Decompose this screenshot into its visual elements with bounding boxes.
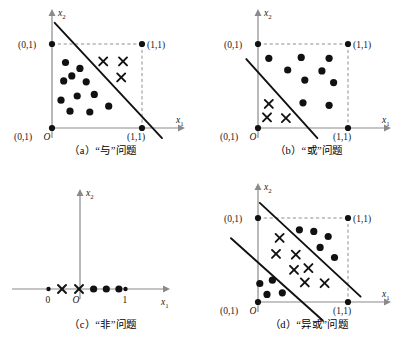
class-dot bbox=[103, 285, 110, 292]
corner-marker bbox=[255, 299, 261, 305]
corner-marker bbox=[345, 299, 351, 305]
logic-problems-figure: (0,1) (1,1) (0,1) (1,1) O x1 x2 （a）“与”问题 bbox=[0, 0, 412, 348]
class-cross bbox=[99, 57, 107, 65]
class-dot bbox=[310, 228, 317, 235]
corner-marker bbox=[255, 125, 261, 131]
class-dot bbox=[68, 72, 75, 79]
class-dot bbox=[269, 277, 276, 284]
x-axis-label: x1 bbox=[381, 115, 390, 127]
panel-c-plot: 0 1 O x1 x2 bbox=[0, 174, 206, 322]
class-dot bbox=[279, 289, 286, 296]
origin-label: O bbox=[250, 306, 257, 316]
panel-d-caption: （d）“异或”问题 bbox=[206, 316, 412, 331]
class-dot bbox=[317, 244, 324, 251]
panel-c-caption: （c）“非”问题 bbox=[0, 316, 206, 331]
corner-marker bbox=[345, 125, 351, 131]
class-dot bbox=[74, 92, 81, 99]
corner-marker bbox=[49, 41, 55, 47]
class-dot bbox=[263, 291, 270, 298]
x-axis-label: x1 bbox=[381, 289, 390, 301]
corner-label-bottom-left: (0,1) bbox=[220, 306, 238, 317]
y-axis-label: x2 bbox=[263, 182, 272, 194]
corner-marker bbox=[255, 41, 261, 47]
class-dot bbox=[301, 77, 308, 84]
panel-a-plot: (0,1) (1,1) (0,1) (1,1) O x1 x2 bbox=[0, 0, 206, 148]
x-axis-label: x1 bbox=[175, 115, 184, 127]
panel-b: (0,1) (1,1) (0,1) (1,1) O x1 x2 （b）“或”问题 bbox=[206, 0, 412, 174]
class-dot bbox=[66, 108, 73, 115]
panel-d-plot: (0,1) (1,1) (0,1) (1,1) O x1 x2 bbox=[206, 174, 412, 322]
corner-marker bbox=[139, 41, 145, 47]
corner-label-top-right: (1,1) bbox=[353, 40, 371, 51]
class-dot bbox=[330, 79, 337, 86]
corner-marker bbox=[139, 125, 145, 131]
class-dot bbox=[62, 59, 69, 66]
y-axis-label: x2 bbox=[57, 8, 66, 20]
y-axis-arrow bbox=[49, 9, 56, 16]
endpoint-dot-one bbox=[123, 287, 127, 291]
y-axis-arrow bbox=[255, 9, 262, 16]
corner-marker bbox=[255, 215, 261, 221]
panel-c: 0 1 O x1 x2 （c）“非”问题 bbox=[0, 174, 206, 348]
class-dot bbox=[90, 285, 97, 292]
class-cross bbox=[282, 114, 290, 122]
class-dot bbox=[115, 285, 122, 292]
class-cross bbox=[321, 279, 329, 287]
class-dot bbox=[326, 102, 333, 109]
corner-marker bbox=[345, 215, 351, 221]
class-cross bbox=[265, 100, 273, 108]
corner-marker bbox=[49, 125, 55, 131]
class-cross bbox=[117, 73, 125, 81]
class-cross bbox=[276, 234, 284, 242]
class-dot bbox=[265, 55, 272, 62]
y-axis-label: x2 bbox=[85, 188, 94, 200]
class-dot bbox=[86, 108, 93, 115]
y-axis-arrow bbox=[77, 189, 84, 196]
panel-a-caption: （a）“与”问题 bbox=[0, 142, 206, 157]
origin-label: O bbox=[250, 132, 257, 142]
corner-label-top-left: (0,1) bbox=[224, 40, 242, 51]
class-dot bbox=[296, 226, 303, 233]
class-dot bbox=[76, 65, 83, 72]
class-cross bbox=[301, 278, 309, 286]
class-dot bbox=[83, 78, 90, 85]
x-axis-label: x1 bbox=[160, 297, 169, 309]
corner-label-top-left: (0,1) bbox=[18, 40, 36, 51]
panel-b-caption: （b）“或”问题 bbox=[206, 142, 412, 157]
class-cross bbox=[304, 264, 312, 272]
corner-label-bottom-right: (1,1) bbox=[333, 306, 351, 317]
corner-label-bottom-left: (0,1) bbox=[14, 132, 32, 143]
class-dot bbox=[91, 91, 98, 98]
class-dot bbox=[57, 97, 64, 104]
tick-label-one: 1 bbox=[123, 295, 128, 305]
decision-boundary bbox=[55, 23, 162, 138]
y-axis-label: x2 bbox=[263, 8, 272, 20]
panel-a: (0,1) (1,1) (0,1) (1,1) O x1 x2 （a）“与”问题 bbox=[0, 0, 206, 174]
class-dot bbox=[318, 67, 325, 74]
class-dot bbox=[298, 54, 305, 61]
corner-label-top-left: (0,1) bbox=[224, 214, 242, 225]
endpoint-dot-zero bbox=[46, 287, 50, 291]
panel-d: (0,1) (1,1) (0,1) (1,1) O x1 x2 （d）“异或”问… bbox=[206, 174, 412, 348]
x-axis-arrow bbox=[163, 286, 170, 293]
origin-label: O bbox=[44, 132, 51, 142]
class-cross bbox=[263, 113, 271, 121]
class-dot bbox=[284, 66, 291, 73]
class-cross bbox=[119, 57, 127, 65]
corner-label-top-right: (1,1) bbox=[353, 214, 371, 225]
class-dot bbox=[105, 103, 112, 110]
corner-marker bbox=[345, 41, 351, 47]
class-cross bbox=[272, 250, 280, 258]
class-dot bbox=[256, 280, 263, 287]
class-dot bbox=[60, 77, 67, 84]
class-dot bbox=[331, 254, 338, 261]
corner-label-bottom-right: (1,1) bbox=[127, 132, 145, 143]
class-dot bbox=[325, 233, 332, 240]
tick-label-zero: 0 bbox=[46, 295, 51, 305]
y-axis-arrow bbox=[255, 183, 262, 190]
class-dot bbox=[326, 55, 333, 62]
class-dot bbox=[299, 99, 306, 106]
corner-label-bottom-left: (0,1) bbox=[220, 132, 238, 143]
origin-label: O bbox=[73, 295, 80, 305]
class-cross bbox=[290, 266, 298, 274]
